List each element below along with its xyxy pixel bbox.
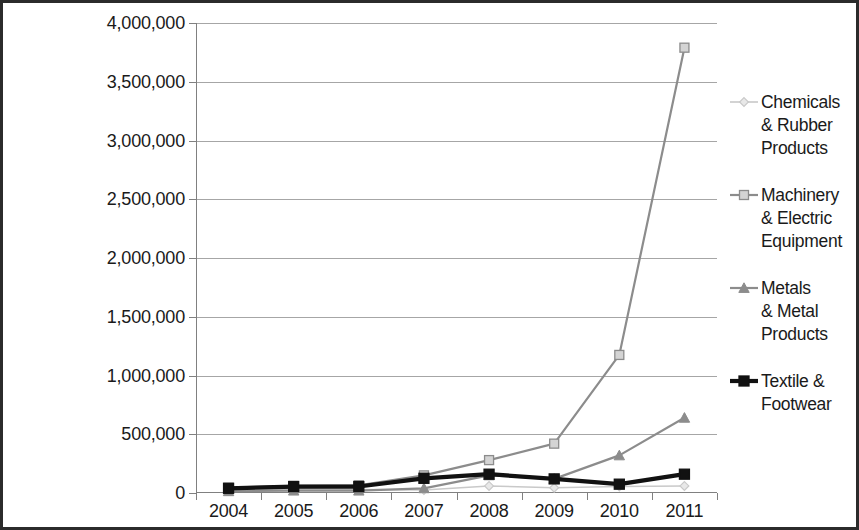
data-point-marker bbox=[484, 469, 494, 479]
y-tick-label: 1,500,000 bbox=[107, 306, 185, 327]
legend-label-line: Equipment bbox=[761, 230, 842, 253]
x-tick-label: 2007 bbox=[404, 501, 443, 522]
data-point-marker bbox=[354, 482, 364, 492]
series-plot bbox=[196, 23, 717, 493]
data-point-marker bbox=[740, 191, 749, 200]
y-tick-label: 0 bbox=[175, 483, 185, 504]
data-point-marker bbox=[419, 473, 429, 483]
legend-label-line: & Metal bbox=[761, 300, 828, 323]
legend-label-line: Products bbox=[761, 137, 840, 160]
x-tick-label: 2006 bbox=[339, 501, 378, 522]
y-axis-tick-labels: 0500,0001,000,0001,500,0002,000,0002,500… bbox=[3, 23, 185, 493]
legend-marker-icon bbox=[729, 184, 759, 206]
data-point-marker bbox=[679, 469, 689, 479]
data-point-marker bbox=[550, 439, 559, 448]
data-point-marker bbox=[485, 456, 494, 465]
y-tick-label: 500,000 bbox=[121, 424, 185, 445]
x-tick-label: 2008 bbox=[469, 501, 508, 522]
x-tick-mark bbox=[457, 493, 458, 500]
y-tick-mark bbox=[189, 317, 196, 318]
legend-label: Chemicals& RubberProducts bbox=[761, 91, 840, 160]
data-point-marker bbox=[614, 450, 624, 460]
data-point-marker bbox=[224, 483, 234, 493]
legend-entry-1[interactable]: Chemicals& RubberProducts bbox=[729, 91, 859, 160]
y-tick-label: 4,000,000 bbox=[107, 13, 185, 34]
x-tick-mark bbox=[326, 493, 327, 500]
series-line bbox=[229, 48, 685, 488]
data-point-marker bbox=[549, 474, 559, 484]
legend-entry-3[interactable]: Metals& MetalProducts bbox=[729, 277, 859, 346]
y-tick-label: 3,500,000 bbox=[107, 71, 185, 92]
series-2 bbox=[224, 43, 689, 492]
y-tick-mark bbox=[189, 82, 196, 83]
y-tick-mark bbox=[189, 434, 196, 435]
legend-label: Textile &Footwear bbox=[761, 370, 832, 416]
legend-marker-icon bbox=[729, 370, 759, 392]
data-point-marker bbox=[739, 376, 749, 386]
data-point-marker bbox=[615, 350, 624, 359]
data-point-marker bbox=[550, 483, 559, 492]
x-tick-label: 2011 bbox=[665, 501, 703, 522]
x-tick-mark bbox=[522, 493, 523, 500]
legend-label-line: Metals bbox=[761, 277, 828, 300]
legend-label-line: Textile & bbox=[761, 370, 832, 393]
x-tick-mark bbox=[652, 493, 653, 500]
data-point-marker bbox=[614, 479, 624, 489]
y-tick-mark bbox=[189, 23, 196, 24]
x-tick-mark bbox=[261, 493, 262, 500]
legend-label-line: Products bbox=[761, 323, 828, 346]
x-tick-mark bbox=[196, 493, 197, 500]
legend-label-line: Footwear bbox=[761, 393, 832, 416]
y-tick-label: 2,500,000 bbox=[107, 189, 185, 210]
x-tick-label: 2004 bbox=[209, 501, 248, 522]
x-tick-mark bbox=[391, 493, 392, 500]
x-axis-tick-labels: 20042005200620072008200920102011 bbox=[196, 501, 717, 530]
chart-figure: 0500,0001,000,0001,500,0002,000,0002,500… bbox=[0, 0, 859, 530]
y-tick-mark bbox=[189, 199, 196, 200]
legend-label-line: & Electric bbox=[761, 207, 842, 230]
legend-label-line: & Rubber bbox=[761, 114, 840, 137]
plot-area bbox=[196, 23, 717, 493]
x-tick-label: 2005 bbox=[274, 501, 313, 522]
data-point-marker bbox=[680, 43, 689, 52]
y-tick-mark bbox=[189, 141, 196, 142]
y-tick-label: 2,000,000 bbox=[107, 248, 185, 269]
x-tick-mark bbox=[587, 493, 588, 500]
x-tick-label: 2009 bbox=[535, 501, 574, 522]
data-point-marker bbox=[289, 482, 299, 492]
legend-entry-2[interactable]: Machinery& ElectricEquipment bbox=[729, 184, 859, 253]
data-point-marker bbox=[680, 482, 689, 491]
x-tick-label: 2010 bbox=[600, 501, 639, 522]
legend-label-line: Chemicals bbox=[761, 91, 840, 114]
y-tick-mark bbox=[189, 493, 196, 494]
legend-label: Metals& MetalProducts bbox=[761, 277, 828, 346]
y-tick-mark bbox=[189, 258, 196, 259]
legend-marker-icon bbox=[729, 91, 759, 113]
legend-marker-icon bbox=[729, 277, 759, 299]
chart-legend: Chemicals& RubberProductsMachinery& Elec… bbox=[729, 91, 859, 440]
y-tick-label: 1,000,000 bbox=[107, 365, 185, 386]
y-tick-label: 3,000,000 bbox=[107, 130, 185, 151]
x-tick-mark bbox=[717, 493, 718, 500]
data-point-marker bbox=[485, 482, 494, 491]
legend-label: Machinery& ElectricEquipment bbox=[761, 184, 842, 253]
legend-label-line: Machinery bbox=[761, 184, 842, 207]
y-tick-mark bbox=[189, 376, 196, 377]
data-point-marker bbox=[679, 413, 689, 423]
data-point-marker bbox=[740, 98, 749, 107]
legend-entry-4[interactable]: Textile &Footwear bbox=[729, 370, 859, 416]
